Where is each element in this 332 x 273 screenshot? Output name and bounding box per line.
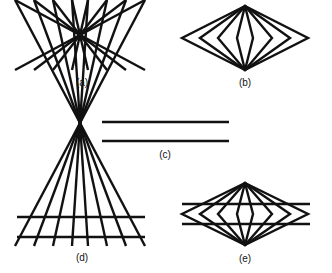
panel-b-nested-diamonds — [182, 6, 308, 70]
panel-e-parallels-on-diamonds — [182, 183, 310, 245]
panel-c-parallel-lines — [102, 122, 229, 141]
label-c: (c) — [159, 149, 171, 160]
diamond-shape — [200, 6, 290, 70]
label-b: (b) — [239, 77, 251, 88]
diamond-shape — [237, 183, 253, 245]
diamond-shape — [200, 183, 290, 245]
label-d: (d) — [76, 252, 88, 263]
hering-illusion-diagram: (a) (b) (c) (d) (e) — [0, 0, 332, 273]
label-e: (e) — [239, 253, 251, 264]
diamond-shape — [237, 6, 253, 70]
